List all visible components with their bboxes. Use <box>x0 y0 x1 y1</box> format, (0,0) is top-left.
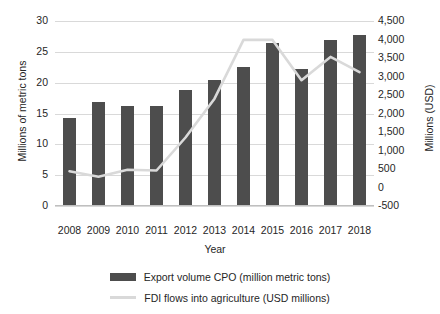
y-tick-left: 30 <box>0 14 48 26</box>
x-tick-label: 2011 <box>142 224 171 236</box>
x-tick-label: 2008 <box>55 224 84 236</box>
legend-item-fdi[interactable]: FDI flows into agriculture (USD millions… <box>0 287 440 308</box>
y-tick-right: 500 <box>378 162 422 174</box>
x-tick-label: 2014 <box>229 224 258 236</box>
y-tick-right: 3,000 <box>378 70 422 82</box>
x-tick-label: 2015 <box>258 224 287 236</box>
y-tick-right: 0 <box>378 181 422 193</box>
y-tick-right: 1,000 <box>378 144 422 156</box>
y-tick-left: 10 <box>0 137 48 149</box>
chart-legend: Export volume CPO (million metric tons) … <box>0 266 440 308</box>
y-tick-right: 2,500 <box>378 88 422 100</box>
x-tick-label: 2012 <box>171 224 200 236</box>
y-tick-left: 15 <box>0 107 48 119</box>
y-tick-left: 25 <box>0 45 48 57</box>
bar-swatch-icon <box>110 273 136 281</box>
y-tick-left: 5 <box>0 168 48 180</box>
legend-label-fdi: FDI flows into agriculture (USD millions… <box>144 292 330 304</box>
y-tick-right: -500 <box>378 199 422 211</box>
y-tick-right: 4,500 <box>378 14 422 26</box>
chart-container: Millions of metric tons Millions (USD) Y… <box>0 0 440 314</box>
line-series <box>55 21 374 206</box>
x-tick-label: 2018 <box>345 224 374 236</box>
x-tick-label: 2010 <box>113 224 142 236</box>
y-tick-right: 2,000 <box>378 107 422 119</box>
gridline <box>55 206 374 207</box>
x-tick-label: 2017 <box>316 224 345 236</box>
legend-label-export: Export volume CPO (million metric tons) <box>144 271 331 283</box>
x-tick-label: 2013 <box>200 224 229 236</box>
y-tick-right: 4,000 <box>378 33 422 45</box>
y-tick-right: 3,500 <box>378 51 422 63</box>
line-swatch-icon <box>110 296 136 299</box>
y-tick-left: 0 <box>0 199 48 211</box>
x-tick-label: 2009 <box>84 224 113 236</box>
axis-baseline <box>55 205 374 206</box>
y-axis-right-title: Millions (USD) <box>423 58 435 178</box>
x-axis-title: Year <box>50 243 380 255</box>
legend-item-export[interactable]: Export volume CPO (million metric tons) <box>0 266 440 287</box>
x-tick-label: 2016 <box>287 224 316 236</box>
fdi-line-path <box>70 40 360 177</box>
plot-area <box>55 21 374 206</box>
y-tick-left: 20 <box>0 76 48 88</box>
y-tick-right: 1,500 <box>378 125 422 137</box>
